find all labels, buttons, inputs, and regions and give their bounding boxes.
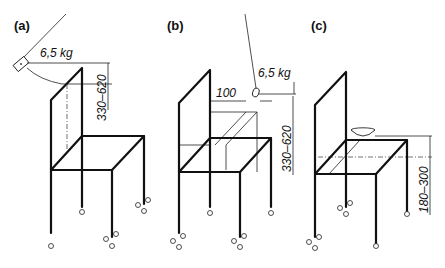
wheel-icon (405, 212, 410, 217)
bowl-weight (351, 128, 375, 136)
chair-back (179, 70, 210, 233)
wheel-icon (269, 211, 274, 216)
panel-c-label: (c) (311, 18, 327, 33)
impact-weight (251, 87, 260, 98)
panel-a-load: 6,5 kg (40, 46, 73, 60)
panel-a: (a) 6,5 kg 330–620 (13, 14, 150, 249)
swing-arc (27, 68, 62, 84)
caster-icon (171, 234, 186, 250)
panel-b-load: 6,5 kg (258, 66, 291, 80)
wheel-icon (374, 244, 379, 249)
chair-back (51, 68, 82, 233)
wheel-icon (49, 244, 54, 249)
chair-seat (51, 136, 144, 170)
panel-a-label: (a) (14, 18, 30, 33)
panel-b-offset: 100 (216, 86, 236, 100)
panel-c: (c) 180–300 (307, 18, 433, 251)
panel-b: (b) 6,5 kg 100 330–620 (167, 14, 296, 250)
chair-back (315, 72, 346, 237)
wheel-icon (208, 211, 213, 216)
chair-test-diagrams: (a) 6,5 kg 330–620 ( (0, 0, 445, 268)
panel-b-height: 330–620 (280, 125, 294, 172)
pendulum-rod (245, 14, 256, 88)
panel-c-height: 180–300 (417, 166, 431, 213)
panel-a-height: 330–620 (95, 74, 109, 121)
impact-weight (13, 56, 29, 71)
panel-b-label: (b) (167, 18, 184, 33)
load-box (210, 112, 257, 172)
wheel-icon (80, 210, 85, 215)
